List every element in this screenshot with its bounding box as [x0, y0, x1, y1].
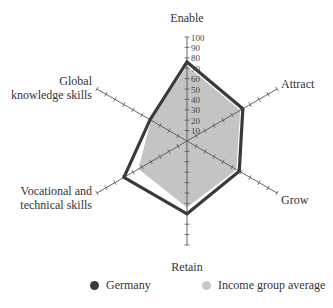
tick-label: 40 [191, 95, 201, 105]
tick-label: 60 [191, 74, 201, 84]
tick-label: 10 [191, 126, 201, 136]
legend-item-germany: Germany [90, 278, 151, 293]
axis-label-global: Global knowledge skills [11, 74, 92, 102]
axis-label-attract: Attract [281, 77, 314, 91]
tick-label: 70 [191, 64, 201, 74]
income-group-polygon [138, 66, 240, 207]
tick-label: 80 [191, 53, 201, 63]
legend-item-income-group: Income group average [202, 278, 325, 293]
germany-swatch-icon [90, 281, 99, 290]
tick-label: 20 [191, 116, 201, 126]
axis-label-grow: Grow [281, 193, 308, 207]
axis-label-enable: Enable [170, 11, 203, 25]
tick-label: 50 [191, 85, 201, 95]
tick-label: 100 [191, 33, 205, 43]
income-group-area [138, 66, 240, 207]
tick-label: 90 [191, 43, 201, 53]
axis-label-retain: Retain [171, 260, 202, 274]
income-group-swatch-icon [202, 281, 211, 290]
axis-label-vocational: Vocational and technical skills [20, 184, 92, 212]
tick-label: 30 [191, 105, 201, 115]
radar-chart: 102030405060708090100 [0, 0, 333, 308]
chart-legend: Germany Income group average [0, 278, 333, 296]
